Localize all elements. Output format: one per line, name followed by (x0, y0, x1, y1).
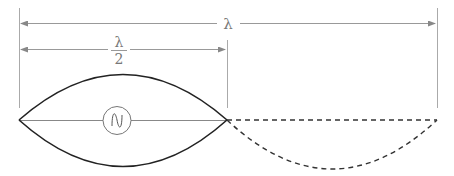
half-wavelength-numerator: λ (115, 34, 124, 50)
dipole-diagram: λ λ 2 (0, 0, 454, 176)
full-wavelength-label: λ (223, 15, 233, 33)
half-wavelength-denominator: 2 (115, 51, 124, 67)
diagram-svg: λ λ 2 (0, 0, 454, 176)
dashed-wave-continuation (227, 120, 437, 169)
ac-source-icon (103, 107, 131, 135)
